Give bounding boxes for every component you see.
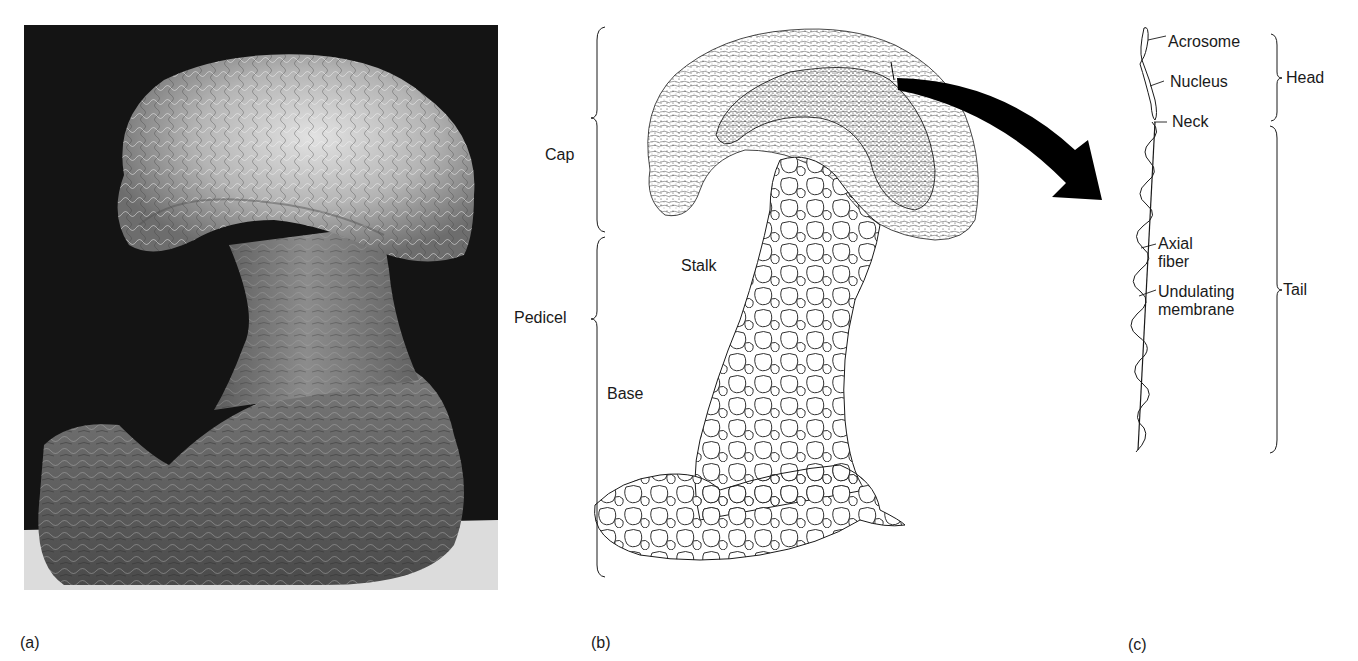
- label-axial-fiber: Axial fiber: [1158, 235, 1193, 271]
- panel-b-drawing: [0, 0, 1358, 661]
- label-axial-fiber-line2: fiber: [1158, 253, 1193, 271]
- label-axial-fiber-line1: Axial: [1158, 235, 1193, 253]
- label-undulating-membrane-line2: membrane: [1158, 301, 1235, 319]
- label-neck: Neck: [1172, 113, 1208, 131]
- cap-bracket: [591, 27, 605, 232]
- label-tail: Tail: [1283, 281, 1307, 299]
- label-stalk: Stalk: [681, 257, 717, 275]
- label-pedicel: Pedicel: [514, 309, 566, 327]
- label-acrosome: Acrosome: [1168, 33, 1240, 51]
- panel-c-letter: (c): [1128, 636, 1147, 654]
- acrosome-shape: [1141, 28, 1148, 61]
- label-base: Base: [607, 385, 643, 403]
- tail-bracket: [1270, 126, 1282, 453]
- panel-b-letter: (b): [591, 634, 611, 652]
- head-bracket: [1271, 34, 1282, 121]
- label-undulating-membrane: Undulating membrane: [1158, 283, 1235, 319]
- label-head: Head: [1286, 69, 1324, 87]
- label-undulating-membrane-line1: Undulating: [1158, 283, 1235, 301]
- label-cap: Cap: [545, 146, 574, 164]
- label-nucleus: Nucleus: [1170, 73, 1228, 91]
- nucleus-shape: [1140, 60, 1157, 120]
